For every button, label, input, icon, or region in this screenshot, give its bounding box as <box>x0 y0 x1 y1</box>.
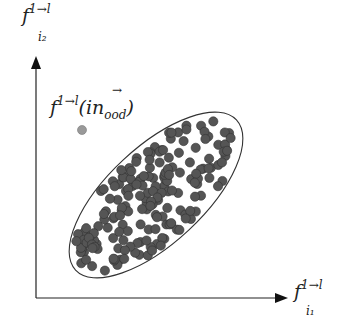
data-point <box>175 225 184 234</box>
x-axis-arrow-icon <box>275 293 288 303</box>
data-point <box>190 178 199 187</box>
data-point <box>167 219 176 228</box>
data-point <box>192 169 201 178</box>
data-point <box>120 246 129 255</box>
data-point <box>99 209 108 218</box>
data-point <box>123 227 132 236</box>
data-point <box>181 214 190 223</box>
data-point <box>120 254 129 263</box>
data-point <box>201 134 210 143</box>
data-point <box>226 133 235 142</box>
data-point <box>204 164 213 173</box>
data-point <box>205 173 214 182</box>
data-point <box>167 128 176 137</box>
in-distribution-points <box>72 117 235 275</box>
data-point <box>209 117 218 126</box>
data-point <box>179 137 188 146</box>
data-point <box>99 185 108 194</box>
data-point <box>136 220 145 229</box>
data-point <box>116 211 125 220</box>
data-point <box>124 191 133 200</box>
data-point <box>174 148 183 157</box>
data-point <box>88 244 97 253</box>
data-point <box>213 182 222 191</box>
data-point <box>223 146 232 155</box>
data-point <box>132 157 141 166</box>
data-point <box>119 236 128 245</box>
data-point <box>145 155 154 164</box>
data-point <box>82 255 91 264</box>
data-point <box>109 254 118 263</box>
data-point <box>142 236 151 245</box>
data-point <box>139 172 148 181</box>
data-point <box>152 213 161 222</box>
data-point <box>151 225 160 234</box>
data-point <box>72 237 81 246</box>
x-axis-label-sub: i₁ <box>306 304 315 318</box>
data-point <box>156 241 165 250</box>
data-point <box>148 246 157 255</box>
data-point <box>146 201 155 210</box>
data-point <box>135 191 144 200</box>
data-point <box>127 167 136 176</box>
data-point <box>115 227 124 236</box>
data-point <box>217 158 226 167</box>
x-axis-label: f1→l <box>294 280 323 302</box>
ood-label: f1→l(inood→) <box>50 96 134 118</box>
data-point <box>164 153 173 162</box>
data-point <box>185 158 194 167</box>
data-point <box>191 143 200 152</box>
data-point <box>159 146 168 155</box>
data-point <box>138 205 147 214</box>
ood-point <box>78 126 87 135</box>
data-point <box>105 194 114 203</box>
data-point <box>167 186 176 195</box>
data-point <box>205 154 214 163</box>
data-point <box>155 158 164 167</box>
data-point <box>182 125 191 134</box>
data-point <box>117 166 126 175</box>
data-point <box>190 192 199 201</box>
y-axis-label-sub: i₂ <box>38 30 47 44</box>
data-point <box>132 180 141 189</box>
data-point <box>165 170 174 179</box>
y-axis-arrow-icon <box>31 56 41 69</box>
data-point <box>163 203 172 212</box>
data-point <box>100 266 109 275</box>
y-axis-label: f1→l <box>22 4 51 26</box>
data-point <box>110 182 119 191</box>
